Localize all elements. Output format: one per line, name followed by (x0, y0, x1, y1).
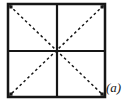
corner-mark-top-right (101, 5, 104, 8)
corner-mark-bottom-right (101, 93, 104, 96)
figure-panel: (a) (0, 0, 128, 106)
figure-label: (a) (106, 80, 128, 96)
corner-mark-top-left (9, 5, 12, 8)
corner-mark-bottom-left (9, 93, 12, 96)
